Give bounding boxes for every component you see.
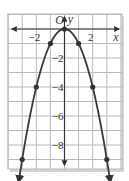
data-point [62, 26, 67, 31]
x-axis-label: x [112, 30, 119, 44]
data-point [20, 157, 25, 162]
y-tick-label: −4 [52, 81, 64, 93]
parabola-graph: −22−2−4−6−8xyO [0, 0, 129, 181]
y-axis-label: y [67, 12, 74, 26]
origin-label: O [55, 13, 64, 27]
data-point [48, 41, 53, 46]
y-tick-label: −6 [52, 110, 64, 122]
data-point [90, 84, 95, 89]
x-tick-label: −2 [28, 31, 40, 43]
data-point [76, 41, 81, 46]
y-tick-label: −8 [52, 139, 64, 151]
x-tick-label: 2 [88, 31, 94, 43]
data-point [104, 157, 109, 162]
data-point [34, 84, 39, 89]
y-tick-label: −2 [52, 52, 64, 64]
